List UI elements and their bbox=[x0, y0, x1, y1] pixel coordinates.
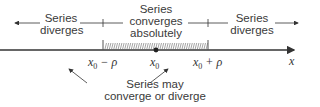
left-region-label: Series diverges bbox=[40, 12, 82, 36]
center-point bbox=[154, 48, 159, 53]
left-endpoint-pointer bbox=[69, 69, 87, 83]
tick-label-center: x0 bbox=[150, 55, 159, 71]
right-region-label: Series diverges bbox=[228, 12, 276, 36]
tick-label-left: x0 − ρ bbox=[88, 55, 117, 71]
bottom-note: Series may converge or diverge bbox=[100, 78, 210, 102]
center-region-label: Series converges absolutely bbox=[121, 3, 191, 39]
axis-label: x bbox=[289, 54, 294, 69]
tick-label-right: x0 + ρ bbox=[193, 55, 222, 71]
